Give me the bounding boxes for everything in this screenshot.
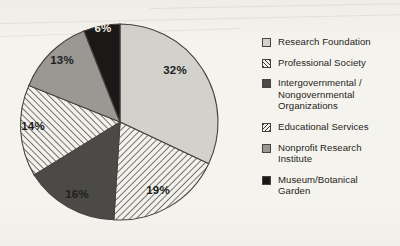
scan-artifact-line: [150, 3, 400, 9]
legend-item-label: Nonprofit Research Institute: [278, 142, 362, 165]
legend-item-label: Professional Society: [278, 57, 366, 69]
pie-label-19: 19%: [146, 184, 170, 196]
legend-item-nonprofit-research-institute[interactable]: Nonprofit Research Institute: [262, 142, 396, 165]
light-gray-swatch-icon: [262, 38, 271, 47]
pie-label-14: 14%: [21, 120, 45, 132]
pie-label-13: 13%: [50, 54, 74, 66]
back-hatch-swatch-icon: [262, 123, 271, 132]
legend-item-professional-society[interactable]: Professional Society: [262, 57, 396, 69]
legend-item-label: Museum/Botanical Garden: [278, 174, 358, 197]
legend-item-label: Research Foundation: [278, 36, 371, 48]
legend-item-educational-services[interactable]: Educational Services: [262, 121, 396, 133]
pie-chart-figure: 32% 19% 16% 14% 13% 6% Research Foundati…: [0, 0, 400, 246]
pie-svg: 32% 19% 16% 14% 13% 6%: [20, 22, 220, 222]
legend: Research Foundation Professional Society…: [262, 36, 396, 206]
pie-label-6: 6%: [94, 22, 111, 34]
legend-item-label: Educational Services: [278, 121, 369, 133]
pie-label-32: 32%: [163, 64, 187, 76]
legend-item-museum-botanical-garden[interactable]: Museum/Botanical Garden: [262, 174, 396, 197]
pie-chart: 32% 19% 16% 14% 13% 6%: [20, 22, 220, 222]
black-swatch-icon: [262, 176, 271, 185]
legend-item-label: Intergovernmental / Nongovernmental Orga…: [278, 77, 362, 112]
pie-label-16: 16%: [65, 188, 89, 200]
dark-gray-swatch-icon: [262, 79, 271, 88]
forward-hatch-swatch-icon: [262, 59, 271, 68]
medium-gray-swatch-icon: [262, 144, 271, 153]
legend-item-intergovernmental-organizations[interactable]: Intergovernmental / Nongovernmental Orga…: [262, 77, 396, 112]
legend-item-research-foundation[interactable]: Research Foundation: [262, 36, 396, 48]
